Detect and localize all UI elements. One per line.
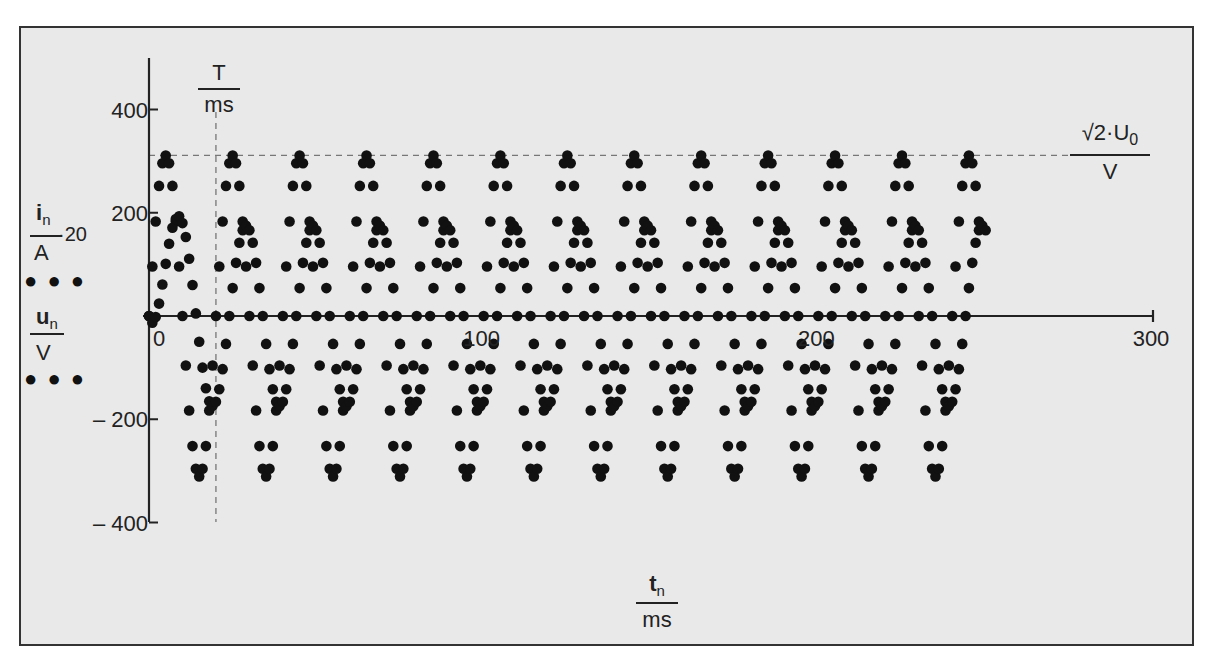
current-point bbox=[388, 283, 399, 294]
current-point bbox=[311, 225, 322, 236]
voltage-point bbox=[301, 181, 312, 192]
voltage-point bbox=[311, 311, 322, 322]
voltage-point bbox=[676, 360, 687, 371]
current-point bbox=[950, 384, 961, 395]
voltage-point bbox=[619, 216, 630, 227]
voltage-point bbox=[877, 360, 888, 371]
i-sub: n bbox=[42, 211, 50, 228]
voltage-point bbox=[247, 360, 258, 371]
voltage-point bbox=[532, 464, 543, 475]
voltage-point bbox=[836, 181, 847, 192]
current-point bbox=[826, 311, 837, 322]
current-point bbox=[519, 258, 530, 269]
current-point bbox=[656, 283, 667, 294]
current-point bbox=[257, 311, 268, 322]
current-point bbox=[897, 283, 908, 294]
voltage-point bbox=[348, 261, 359, 272]
voltage-point bbox=[686, 216, 697, 227]
current-point bbox=[980, 225, 991, 236]
voltage-point bbox=[167, 181, 178, 192]
voltage-point bbox=[800, 464, 811, 475]
voltage-point bbox=[569, 181, 580, 192]
voltage-point bbox=[833, 158, 844, 169]
voltage-point bbox=[699, 158, 710, 169]
current-point bbox=[415, 384, 426, 395]
current-point bbox=[763, 283, 774, 294]
current-point bbox=[803, 384, 814, 395]
current-point bbox=[331, 364, 342, 375]
current-point bbox=[683, 384, 694, 395]
voltage-point bbox=[408, 360, 419, 371]
voltage-point bbox=[890, 181, 901, 192]
current-point bbox=[485, 364, 496, 375]
voltage-point bbox=[649, 360, 660, 371]
voltage-point bbox=[421, 181, 432, 192]
voltage-point bbox=[813, 311, 824, 322]
current-point bbox=[816, 384, 827, 395]
current-point bbox=[378, 225, 389, 236]
current-point bbox=[452, 258, 463, 269]
voltage-point bbox=[934, 464, 945, 475]
voltage-point bbox=[947, 311, 958, 322]
current-point bbox=[693, 311, 704, 322]
voltage-point bbox=[582, 360, 593, 371]
current-point bbox=[713, 225, 724, 236]
voltage-point bbox=[887, 216, 898, 227]
voltage-point bbox=[375, 261, 386, 272]
voltage-point bbox=[867, 464, 878, 475]
voltage-point bbox=[646, 311, 657, 322]
current-point bbox=[428, 283, 439, 294]
voltage-point bbox=[365, 158, 376, 169]
voltage-point bbox=[284, 216, 295, 227]
voltage-point bbox=[913, 311, 924, 322]
current-point bbox=[830, 283, 841, 294]
voltage-point bbox=[923, 441, 934, 452]
current-point bbox=[425, 311, 436, 322]
voltage-point bbox=[756, 181, 767, 192]
current-point bbox=[187, 280, 198, 291]
current-point bbox=[920, 258, 931, 269]
voltage-point bbox=[689, 181, 700, 192]
current-point bbox=[686, 364, 697, 375]
current-point bbox=[662, 339, 673, 350]
x-tick-label: 100 bbox=[463, 326, 500, 351]
current-point bbox=[860, 311, 871, 322]
voltage-point bbox=[602, 441, 613, 452]
voltage-point bbox=[743, 360, 754, 371]
voltage-point bbox=[217, 216, 228, 227]
current-point bbox=[358, 311, 369, 322]
current-point bbox=[348, 384, 359, 395]
axes bbox=[143, 58, 1153, 523]
current-point bbox=[596, 339, 607, 350]
voltage-point bbox=[609, 360, 620, 371]
current-point bbox=[619, 364, 630, 375]
i-unit: A bbox=[34, 240, 49, 266]
u-unit: V bbox=[36, 340, 51, 366]
voltage-point bbox=[783, 360, 794, 371]
voltage-point bbox=[632, 158, 643, 169]
voltage-point bbox=[790, 441, 801, 452]
current-point bbox=[368, 237, 379, 248]
current-point bbox=[264, 364, 275, 375]
current-point bbox=[398, 364, 409, 375]
current-point bbox=[345, 396, 356, 407]
voltage-point bbox=[321, 441, 332, 452]
voltage-point bbox=[957, 181, 968, 192]
y-tick-label: 200 bbox=[111, 201, 148, 226]
voltage-point bbox=[147, 261, 158, 272]
current-point bbox=[893, 311, 904, 322]
current-point bbox=[355, 339, 366, 350]
current-point bbox=[401, 384, 412, 395]
current-point bbox=[160, 259, 171, 270]
current-point bbox=[820, 364, 831, 375]
voltage-point bbox=[820, 216, 831, 227]
period-label: T ms bbox=[198, 60, 240, 118]
current-point bbox=[863, 339, 874, 350]
voltage-point bbox=[910, 261, 921, 272]
voltage-point bbox=[950, 261, 961, 272]
voltage-point bbox=[853, 405, 864, 416]
voltage-point bbox=[850, 360, 861, 371]
i-factor: ·20 bbox=[58, 223, 87, 246]
current-point bbox=[301, 237, 312, 248]
current-point bbox=[937, 384, 948, 395]
